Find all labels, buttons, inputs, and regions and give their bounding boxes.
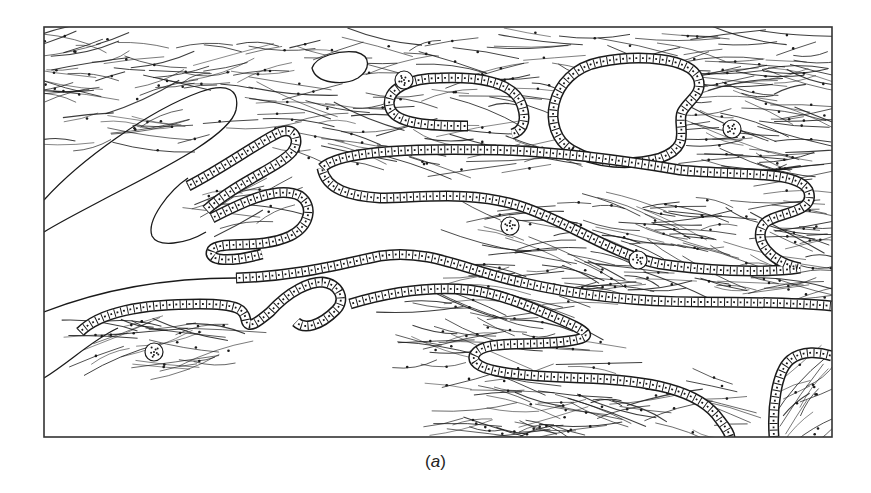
fiber-nucleus <box>721 385 724 388</box>
fiber-nucleus <box>111 75 114 78</box>
fiber-nucleus <box>745 262 748 265</box>
fiber-nucleus <box>728 285 731 288</box>
fiber-nucleus <box>787 285 790 288</box>
fiber-nucleus <box>702 215 705 218</box>
fiber-nucleus <box>423 163 426 166</box>
fiber-nucleus <box>673 407 676 410</box>
fiber-nucleus <box>141 320 144 323</box>
fiber-nucleus <box>95 355 98 358</box>
fiber-nucleus <box>765 102 768 105</box>
fiber-nucleus <box>594 37 597 40</box>
fiber-nucleus <box>283 49 286 52</box>
fiber-nucleus <box>488 430 491 433</box>
fiber-nucleus <box>257 73 260 76</box>
fiber-nucleus <box>692 431 695 434</box>
fiber-nucleus <box>530 403 533 406</box>
fiber-nucleus <box>725 153 728 156</box>
fiber-nucleus <box>476 333 479 336</box>
fiber-nucleus <box>814 393 817 396</box>
fiber-nucleus <box>543 57 546 60</box>
fiber-nucleus <box>626 408 629 411</box>
fiber-nucleus <box>570 428 573 431</box>
fiber-nucleus <box>78 93 81 96</box>
fiber-nucleus <box>654 219 657 222</box>
fiber-nucleus <box>701 236 704 239</box>
figure-caption: (a) <box>0 452 871 472</box>
fiber-nucleus <box>564 409 567 412</box>
fiber-nucleus <box>655 394 658 397</box>
fiber-nucleus <box>146 121 149 124</box>
fiber-nucleus <box>764 75 767 78</box>
fiber-nucleus <box>537 248 540 251</box>
fiber-nucleus <box>509 329 512 332</box>
fiber-nucleus <box>350 133 353 136</box>
fiber-nucleus <box>803 72 806 75</box>
fiber-nucleus <box>813 433 816 436</box>
fiber-nucleus <box>153 64 156 67</box>
fiber-nucleus <box>810 138 813 141</box>
fiber-nucleus <box>198 331 201 334</box>
fiber-nucleus <box>758 63 761 66</box>
fiber-nucleus <box>707 73 710 76</box>
fiber-nucleus <box>810 103 813 106</box>
fiber-nucleus <box>709 229 712 232</box>
fiber-nucleus <box>450 345 453 348</box>
fiber-nucleus <box>298 82 301 85</box>
fiber-nucleus <box>792 47 795 50</box>
fiber-nucleus <box>194 138 197 141</box>
fiber-nucleus <box>356 163 359 166</box>
fiber-nucleus <box>362 130 365 133</box>
fiber-nucleus <box>800 124 803 127</box>
fiber-nucleus <box>312 90 315 93</box>
fiber-nucleus <box>577 201 580 204</box>
fiber-nucleus <box>823 114 826 117</box>
fiber-nucleus <box>534 32 537 35</box>
fiber-nucleus <box>546 270 549 273</box>
caption-close-paren: ) <box>440 452 446 471</box>
fiber-nucleus <box>455 91 458 94</box>
fiber-nucleus <box>425 53 428 56</box>
fiber-nucleus <box>181 85 184 88</box>
fiber-nucleus <box>267 211 270 214</box>
fiber-nucleus <box>134 128 137 131</box>
fiber-nucleus <box>718 223 721 226</box>
fiber-nucleus <box>662 233 665 236</box>
fiber-nucleus <box>442 330 445 333</box>
fiber-nucleus <box>675 205 678 208</box>
fiber-nucleus <box>53 72 56 75</box>
dotted-nucleus <box>629 251 647 269</box>
fiber-nucleus <box>276 112 279 115</box>
fiber-nucleus <box>468 378 471 381</box>
fiber-nucleus <box>381 106 384 109</box>
fiber-nucleus <box>472 299 475 302</box>
fiber-nucleus <box>157 84 160 87</box>
fiber-nucleus <box>429 340 432 343</box>
fiber-nucleus <box>687 35 690 38</box>
fiber-nucleus <box>326 107 329 110</box>
fiber-nucleus <box>601 406 604 409</box>
fiber-nucleus <box>421 161 424 164</box>
fiber-nucleus <box>548 84 551 87</box>
fiber-nucleus <box>297 92 300 95</box>
dotted-nucleus <box>395 71 413 89</box>
fiber-nucleus <box>785 189 788 192</box>
fiber-nucleus <box>216 190 219 193</box>
fiber-nucleus <box>86 117 89 120</box>
fiber-nucleus <box>812 267 815 270</box>
fiber-nucleus <box>799 364 802 367</box>
fiber-nucleus <box>796 402 799 405</box>
fiber-nucleus <box>208 195 211 198</box>
fiber-nucleus <box>64 35 67 38</box>
fiber-nucleus <box>567 430 570 433</box>
fiber-nucleus <box>718 144 721 147</box>
fiber-nucleus <box>162 366 165 369</box>
fiber-nucleus <box>445 365 448 368</box>
fiber-nucleus <box>584 269 587 272</box>
fiber-nucleus <box>786 34 789 37</box>
fiber-nucleus <box>745 215 748 218</box>
fiber-nucleus <box>88 73 91 76</box>
fiber-nucleus <box>475 422 478 425</box>
fiber-nucleus <box>693 247 696 250</box>
fiber-nucleus <box>264 69 267 72</box>
fiber-nucleus <box>608 362 611 365</box>
